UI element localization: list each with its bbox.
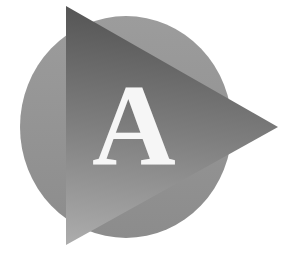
logo: A xyxy=(0,0,297,256)
logo-letter: A xyxy=(92,61,176,189)
play-circle-logo-icon: A xyxy=(0,0,297,256)
